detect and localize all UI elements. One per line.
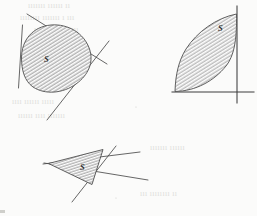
set-label-s-figure-1: S [44,54,49,64]
figure-canvas: ııııııı ıııııı ıı ıııııııı ııııııı ı ııı… [0,0,257,216]
set-label-s-figure-2: S [218,23,223,33]
scanned-figure-sheet: ııııııı ıııııı ıı ıııııııı ııııııı ı ııı… [0,0,257,216]
bleed-line: ııı ıııııııı ıı [140,189,177,198]
bleed-line: ııııııı ıııııı [150,143,185,152]
bleed-line: ıııı ıııııı ııııı [12,97,54,106]
bleed-line: ııııııı ıııııı ıı [28,1,70,10]
bleed-line: ıııııı ıııı ııııııı [18,111,65,120]
set-label-s-figure-3: S [80,162,85,172]
